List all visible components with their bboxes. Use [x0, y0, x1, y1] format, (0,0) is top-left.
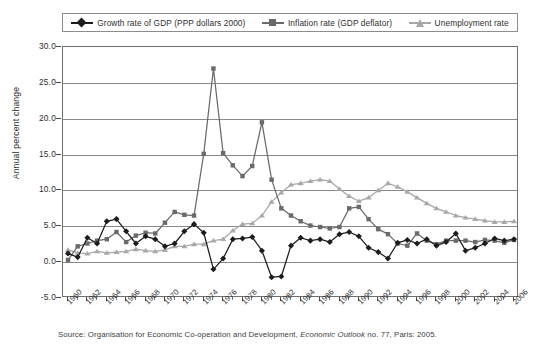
- x-axis-tick-label: 1960: [65, 287, 84, 306]
- x-axis-tick-label: 1994: [395, 287, 414, 306]
- x-axis-tick-label: 1990: [356, 287, 375, 306]
- x-axis-tick-label: 1982: [278, 287, 297, 306]
- x-axis-tick-label: 1986: [317, 287, 336, 306]
- x-axis-tick-label: 1962: [84, 287, 103, 306]
- x-axis-tick-label: 1992: [375, 287, 394, 306]
- x-axis-tick-label: 1980: [259, 287, 278, 306]
- x-axis-tick-label: 1976: [220, 287, 239, 306]
- x-axis-tick-label: 1968: [143, 287, 162, 306]
- source-note: Source: Organisation for Economic Co-ope…: [58, 330, 528, 339]
- x-axis-tick-label: 2004: [492, 287, 511, 306]
- x-axis-tick-label: 2000: [453, 287, 472, 306]
- x-axis-tick-label: 1978: [240, 287, 259, 306]
- x-axis-tick-label: 1988: [337, 287, 356, 306]
- source-title-italic: Economic Outlook: [300, 330, 365, 339]
- x-axis-tick-label: 1984: [298, 287, 317, 306]
- x-axis-tick-label: 1964: [104, 287, 123, 306]
- x-axis-tick-label: 1970: [162, 287, 181, 306]
- chart-figure: Growth rate of GDP (PPP dollars 2000) In…: [0, 0, 542, 348]
- x-axis-tick-label: 1966: [123, 287, 142, 306]
- x-axis-tick-label: 1998: [433, 287, 452, 306]
- x-axis-tick-label: 2002: [472, 287, 491, 306]
- x-axis: 1960196219641966196819701972197419761978…: [0, 0, 542, 348]
- x-axis-tick-label: 1974: [201, 287, 220, 306]
- source-text-tail: no. 77, Paris: 2005.: [365, 330, 437, 339]
- x-axis-tick-label: 1972: [181, 287, 200, 306]
- x-axis-tick-label: 2006: [511, 287, 530, 306]
- x-axis-tick-label: 1996: [414, 287, 433, 306]
- source-text-lead: Source: Organisation for Economic Co-ope…: [58, 330, 300, 339]
